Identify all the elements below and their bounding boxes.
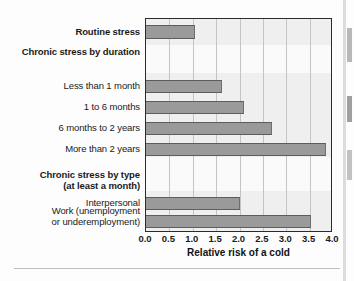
x-tick-label: 1.0 [185, 233, 198, 244]
plot-area [145, 18, 332, 232]
page-edge-artifact [343, 0, 346, 281]
page-edge-artifact [347, 28, 352, 62]
bar [146, 197, 240, 210]
x-tick-label: 2.0 [232, 233, 245, 244]
page-edge-artifact [347, 96, 352, 122]
category-label: Routine stress [0, 26, 140, 37]
bar [146, 25, 195, 39]
x-tick-label: 3.5 [302, 233, 315, 244]
category-label: Chronic stress by type (at least a month… [0, 169, 140, 191]
bottom-divider-rule [14, 268, 340, 269]
bar [146, 101, 244, 114]
x-tick-label: 2.5 [255, 233, 268, 244]
category-label: 1 to 6 months [0, 101, 140, 112]
x-tick-label: 0.0 [138, 233, 151, 244]
x-tick-label: 4.0 [325, 233, 338, 244]
chart-figure: Routine stressChronic stress by duration… [0, 0, 354, 281]
x-tick-label: 3.0 [279, 233, 292, 244]
x-tick-label: 0.5 [162, 233, 175, 244]
gridline [310, 19, 311, 231]
bar [146, 80, 222, 93]
category-label: 6 months to 2 years [0, 122, 140, 133]
bar [146, 122, 272, 135]
category-label: Chronic stress by duration [0, 46, 140, 57]
page-edge-artifact [347, 150, 352, 180]
x-axis-tick-labels: 0.00.51.01.52.02.53.03.54.0 [145, 233, 332, 247]
x-tick-label: 1.5 [209, 233, 222, 244]
bar [146, 143, 326, 156]
category-label: More than 2 years [0, 143, 140, 154]
category-label-column: Routine stressChronic stress by duration… [0, 18, 140, 232]
category-label: Work (unemployment or underemployment) [0, 205, 140, 227]
gridline [286, 19, 287, 231]
bar [146, 215, 311, 228]
category-label: Less than 1 month [0, 80, 140, 91]
x-axis-title: Relative risk of a cold [145, 247, 332, 258]
